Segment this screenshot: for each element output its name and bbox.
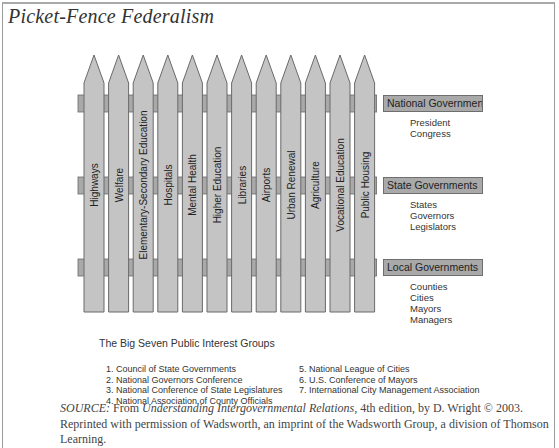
picket: Libraries <box>232 55 252 312</box>
picket-label: Agriculture <box>310 161 321 209</box>
member: Managers <box>410 314 452 325</box>
picket-label: Mental Health <box>187 154 198 216</box>
source-book-title: Understanding Intergovernmental Relation… <box>142 401 354 415</box>
picket: Vocational Education <box>330 55 350 312</box>
big-seven-right-list: 5. National League of Cities 6. U.S. Con… <box>299 364 480 396</box>
list-item: 2. National Governors Conference <box>106 375 283 386</box>
member: Congress <box>410 128 451 139</box>
big-seven-left-list: 1. Council of State Governments 2. Natio… <box>106 364 283 406</box>
rail-label-national: National Government <box>383 95 483 112</box>
rail-label-local: Local Governments <box>383 259 483 276</box>
member: Counties <box>410 281 452 292</box>
picket: Public Housing <box>355 55 375 312</box>
source-from: From <box>110 401 142 415</box>
local-members: Counties Cities Mayors Managers <box>410 281 452 325</box>
list-item: 5. National League of Cities <box>299 364 480 375</box>
member: Governors <box>410 210 456 221</box>
picket: Airports <box>256 55 276 312</box>
picket-label: Hospitals <box>163 164 174 205</box>
picket-label: Public Housing <box>360 152 371 219</box>
picket-fence-diagram: HighwaysWelfareElementary-Secondary Educ… <box>0 0 559 330</box>
picket-label: Libraries <box>237 166 248 204</box>
source-citation: SOURCE: From Understanding Intergovernme… <box>60 401 550 448</box>
picket: Mental Health <box>182 55 202 312</box>
member: States <box>410 199 456 210</box>
picket-label: Airports <box>261 168 272 202</box>
member: President <box>410 117 451 128</box>
list-item: 6. U.S. Conference of Mayors <box>299 375 480 386</box>
picket-label: Elementary-Secondary Education <box>138 111 149 260</box>
state-members: States Governors Legislators <box>410 199 456 232</box>
member: Cities <box>410 292 452 303</box>
source-prefix: SOURCE: <box>60 401 110 415</box>
picket: Higher Education <box>207 55 227 312</box>
list-item: 7. International City Management Associa… <box>299 385 480 396</box>
picket-label: Higher Education <box>212 147 223 224</box>
rail-label-state: State Governments <box>383 177 483 194</box>
list-item: 3. National Conference of State Legislat… <box>106 385 283 396</box>
member: Mayors <box>410 303 452 314</box>
picket-label: Welfare <box>114 167 125 202</box>
picket: Highways <box>84 55 104 312</box>
picket: Welfare <box>109 55 129 312</box>
picket: Urban Renewal <box>281 55 301 312</box>
national-members: President Congress <box>410 117 451 139</box>
big-seven-heading: The Big Seven Public Interest Groups <box>99 337 275 349</box>
picket: Agriculture <box>305 55 325 312</box>
picket: Elementary-Secondary Education <box>133 55 153 312</box>
list-item: 1. Council of State Governments <box>106 364 283 375</box>
picket-label: Highways <box>89 163 100 206</box>
member: Legislators <box>410 221 456 232</box>
picket-label: Urban Renewal <box>286 151 297 220</box>
picket-label: Vocational Education <box>335 138 346 231</box>
picket: Hospitals <box>158 55 178 312</box>
